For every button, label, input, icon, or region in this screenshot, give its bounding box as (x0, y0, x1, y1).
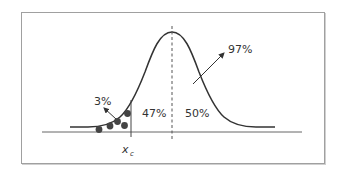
data-point (114, 118, 121, 125)
critical-value-subscript: c (130, 150, 134, 158)
left-tail-label: 3% (94, 95, 111, 108)
data-point (121, 122, 128, 129)
center-right-label: 50% (185, 107, 209, 120)
data-point (107, 123, 114, 130)
center-left-label: 47% (142, 107, 166, 120)
data-point (124, 110, 131, 117)
critical-value-label: x (121, 143, 129, 156)
data-point (96, 126, 103, 133)
upper-area-label: 97% (228, 43, 252, 56)
left-tail-arrow-icon (104, 108, 116, 119)
normal-distribution-diagram: 3% 47% 50% 97% x c (0, 0, 343, 175)
